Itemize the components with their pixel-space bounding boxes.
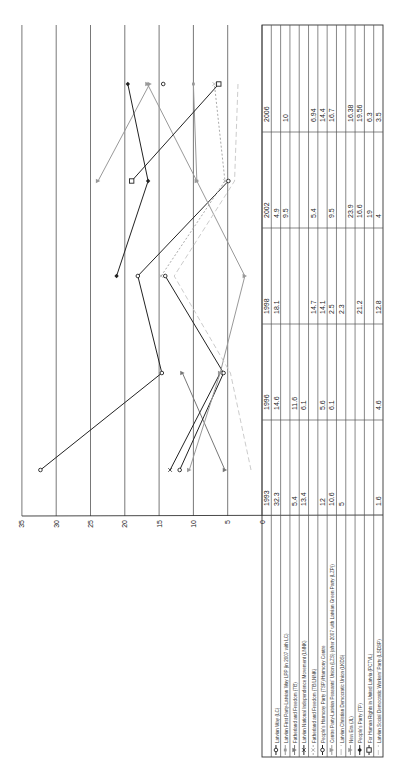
legend-label: New Era (JL) (349, 716, 354, 743)
table-cell: 14.1 (319, 300, 326, 314)
circle-marker-icon (39, 468, 43, 472)
circle-marker-icon (161, 82, 165, 86)
legend-label: For Human Rights in United Latvia (PCTVL… (368, 653, 373, 743)
gridlines (22, 25, 383, 516)
table-cell: 12.8 (375, 300, 382, 314)
table-cell: 18.1 (273, 300, 280, 314)
table-cell: 10.6 (328, 492, 335, 506)
table-cell: 5.6 (319, 400, 326, 410)
diamond-marker-icon (358, 748, 362, 752)
legend-label: Latvian Way (LC) (275, 707, 280, 743)
table-cell: 16.38 (347, 104, 354, 122)
circle-marker-icon (163, 274, 167, 278)
table-cell: 5.4 (291, 496, 298, 506)
tick-label: 15 (156, 520, 163, 528)
table-cell: 9.5 (328, 208, 335, 218)
diamond-marker-icon (126, 82, 130, 86)
table-cell: 14.6 (273, 396, 280, 410)
table-cell: 2.5 (328, 304, 335, 314)
legend-label: People's Harmony Party (TSP)/Harmony Cen… (321, 645, 326, 743)
table-year-header: 1993 (263, 490, 270, 506)
table-cell: 1.6 (375, 496, 382, 506)
table-year-header: 2002 (263, 202, 270, 218)
legend-label: Latvian Social Democratic Workers' Party… (377, 639, 382, 743)
legend-label: Fatherland and Freedom (TB/LNNK) (312, 668, 317, 743)
triangle-marker-icon (96, 179, 100, 183)
table-cell: 5 (338, 502, 345, 506)
table-cell: 19.56 (356, 104, 363, 122)
square-marker-icon (367, 748, 371, 752)
tick-label: 25 (87, 520, 94, 528)
legend-label: Latvian First Party-Latvian Way LPP (in … (284, 633, 289, 743)
table-cell: 14.7 (310, 300, 317, 314)
tick-label: 10 (190, 520, 197, 528)
legend-label: Fatherland and Freedom (TB) (293, 682, 298, 743)
tick-label: 35 (18, 520, 25, 528)
table-cell: 6.94 (310, 108, 317, 122)
circle-marker-icon (274, 748, 278, 752)
circle-marker-icon (160, 371, 164, 375)
diamond-marker-icon (114, 274, 118, 278)
table-cell: 6.3 (366, 112, 373, 122)
series-line (192, 83, 198, 183)
triangle-marker-icon (180, 371, 184, 375)
square-marker-icon (217, 82, 221, 86)
x-marker-icon (168, 468, 172, 472)
tick-label: 30 (53, 520, 60, 528)
table-cell: 23.9 (347, 204, 354, 218)
table-cell: 5.4 (310, 208, 317, 218)
table-cell: 4.9 (273, 208, 280, 218)
series-line (180, 371, 227, 472)
table-cell: 4 (375, 214, 382, 218)
table-cell: 32.3 (273, 492, 280, 506)
circle-marker-icon (136, 274, 140, 278)
legend-label: People's Party (TP) (358, 703, 363, 743)
circle-marker-icon (178, 468, 182, 472)
table-year-header: 1998 (263, 298, 270, 314)
table-cell: 16.7 (328, 108, 335, 122)
table-cell: 6.1 (328, 400, 335, 410)
table-year-header: 2006 (263, 106, 270, 122)
square-marker-icon (129, 179, 133, 183)
table-cell: 2.3 (338, 304, 345, 314)
table-cell: 14.4 (319, 108, 326, 122)
diamond-marker-icon (146, 179, 150, 183)
circle-marker-icon (227, 179, 231, 183)
triangle-marker-icon (147, 82, 151, 86)
table-cell: 6.1 (300, 400, 307, 410)
table-cell: 11.6 (291, 397, 298, 410)
square-marker-icon (192, 83, 195, 86)
legend-label: Latvian Christian Democratic Union (LKDS… (340, 654, 345, 743)
table-cell: 3.5 (375, 112, 382, 122)
circle-marker-icon (321, 748, 325, 752)
series-line (168, 371, 222, 472)
series-line (174, 84, 251, 470)
table-cell: 19 (366, 210, 373, 218)
data-table: 19931996199820022006Latvian Way (LC)32.3… (262, 25, 383, 757)
legend-label: Latvian National Independence Movement (… (302, 640, 307, 743)
square-marker-icon (284, 749, 287, 752)
table-cell: 9.5 (282, 208, 289, 218)
table-year-header: 1996 (263, 394, 270, 410)
series-lines (39, 82, 251, 472)
tick-label: 20 (121, 520, 128, 528)
value-axis-ticks: 05101520253035 (18, 520, 265, 528)
table-cell: 21.2 (356, 300, 363, 314)
tick-label: 5 (224, 520, 231, 524)
x-marker-icon (159, 274, 163, 278)
table-cell: 12 (319, 498, 326, 506)
x-marker-icon (213, 82, 217, 86)
x-marker-icon (311, 748, 315, 752)
legend-label: Centre Party-Latvian Peasants' Union (LZ… (330, 564, 335, 743)
triangle-marker-icon (223, 468, 227, 472)
rotated-line-chart: 05101520253035 19931996199820022006Latvi… (0, 0, 403, 771)
table-cell: 4.6 (375, 400, 382, 410)
table-cell: 13.4 (300, 492, 307, 506)
table-cell: 10 (282, 114, 289, 122)
table-cell: 16.6 (356, 204, 363, 218)
